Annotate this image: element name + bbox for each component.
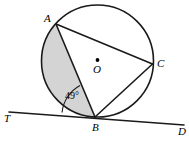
label-tangent-t: T	[4, 113, 10, 124]
geometry-figure: A B C O T D 49°	[0, 0, 189, 144]
chord-bc	[95, 64, 153, 117]
label-center-o: O	[93, 64, 101, 75]
label-angle-value: 49°	[65, 91, 79, 101]
label-point-c: C	[157, 58, 164, 69]
label-tangent-d: D	[178, 126, 186, 137]
label-point-b: B	[92, 122, 99, 133]
center-point-dot	[96, 58, 100, 62]
label-point-a: A	[44, 13, 51, 24]
shaded-segment-region	[42, 24, 95, 117]
